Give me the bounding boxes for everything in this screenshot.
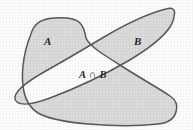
intersection-label: A ∩ B (79, 70, 107, 81)
set-b-label: B (134, 36, 141, 47)
set-a-label: A (44, 36, 51, 47)
venn-diagram-canvas (0, 0, 193, 130)
venn-diagram-figure: A B A ∩ B (0, 0, 193, 130)
